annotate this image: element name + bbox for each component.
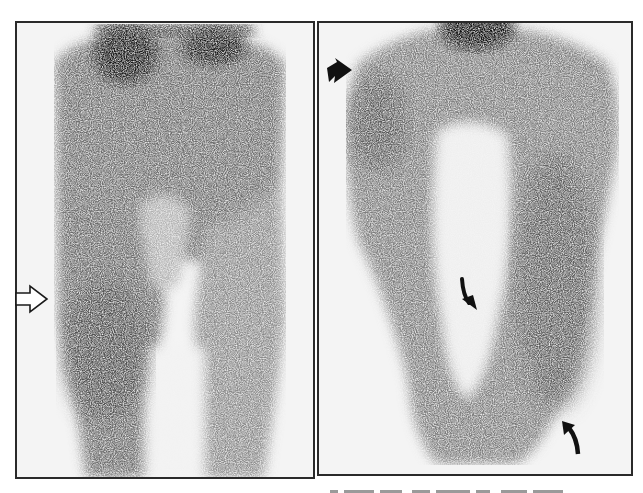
- curved-arrow-down-icon: [459, 277, 481, 313]
- scan-panel-right: [317, 21, 633, 476]
- open-arrow-right-icon: [15, 284, 49, 314]
- scan-panel-left: [15, 21, 315, 479]
- curved-arrow-up-icon: [560, 420, 584, 456]
- arrowhead-icon: [325, 58, 353, 84]
- left-scan-image: [17, 23, 313, 477]
- right-scan-image: [319, 23, 631, 474]
- caption-truncated: [330, 486, 590, 493]
